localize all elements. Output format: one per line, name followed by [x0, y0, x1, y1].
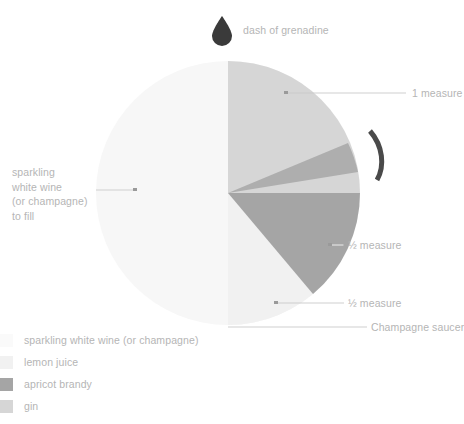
legend-swatch-sparkling-wine	[0, 334, 13, 347]
callout-label-apricot-brandy: ½ measure	[348, 238, 401, 253]
callout-label-sparkling-wine-line-2: white wine	[12, 180, 98, 195]
arrowhead-sparkling	[133, 188, 137, 191]
legend-label-sparkling-wine: sparkling white wine (or champagne)	[24, 334, 199, 346]
legend-item-lemon-juice: lemon juice	[0, 352, 240, 372]
legend-label-apricot-brandy: apricot brandy	[24, 378, 92, 390]
legend-label-lemon-juice: lemon juice	[24, 356, 78, 368]
arrowhead-gin	[284, 91, 288, 94]
legend-item-sparkling-wine: sparkling white wine (or champagne)	[0, 330, 240, 350]
grenadine-label: dash of grenadine	[243, 23, 329, 38]
callout-label-gin: 1 measure	[412, 86, 463, 101]
citrus-twist-arc-icon	[370, 131, 382, 180]
arrowhead-lemon	[274, 301, 278, 304]
legend-label-gin: gin	[24, 400, 38, 412]
callout-label-lemon-juice: ½ measure	[348, 296, 401, 311]
arrowhead-brandy	[328, 243, 332, 246]
callout-label-sparkling-wine-line-3: (or champagne)	[12, 194, 98, 209]
legend-swatch-lemon-juice	[0, 356, 13, 369]
legend-swatch-apricot-brandy	[0, 378, 13, 391]
grenadine-drop-icon	[212, 16, 232, 46]
legend: sparkling white wine (or champagne) lemo…	[0, 330, 240, 418]
callout-label-sparkling-wine: sparkling white wine (or champagne) to f…	[12, 165, 98, 223]
callout-label-sparkling-wine-line-4: to fill	[12, 209, 98, 224]
legend-item-apricot-brandy: apricot brandy	[0, 374, 240, 394]
legend-item-gin: gin	[0, 396, 240, 416]
callout-label-sparkling-wine-line-1: sparkling	[12, 165, 98, 180]
callout-label-champagne-saucer: Champagne saucer	[371, 320, 464, 335]
legend-swatch-gin	[0, 400, 13, 413]
